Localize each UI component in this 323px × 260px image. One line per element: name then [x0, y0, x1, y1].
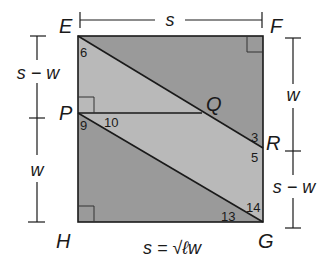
- angle-label-3: 3: [251, 130, 258, 145]
- angle-label-9: 9: [80, 118, 87, 133]
- top-dim-label: s: [166, 10, 175, 30]
- right-dim-lower-label: s − w: [273, 177, 317, 197]
- vertex-label-q: Q: [206, 93, 222, 115]
- vertex-label-e: E: [59, 15, 73, 37]
- vertex-label-h: H: [56, 230, 71, 252]
- angle-label-5: 5: [251, 150, 258, 165]
- angle-label-13: 13: [221, 209, 235, 224]
- vertex-label-p: P: [59, 102, 73, 124]
- angle-label-6: 6: [80, 45, 87, 60]
- right-dim-upper-label: w: [287, 85, 301, 105]
- vertex-label-g: G: [258, 230, 274, 252]
- angle-label-10: 10: [104, 115, 118, 130]
- left-dim-upper-label: s − w: [17, 63, 61, 83]
- square-diagram: s s − w w w s − w E F G H P Q R 6 10 9 3…: [0, 0, 323, 260]
- angle-label-14: 14: [246, 200, 260, 215]
- left-dim-lower-label: w: [31, 160, 45, 180]
- bottom-formula-label: s = √ℓw: [143, 238, 202, 258]
- vertex-label-r: R: [266, 132, 280, 154]
- diagram-canvas: s s − w w w s − w E F G H P Q R 6 10 9 3…: [0, 0, 323, 260]
- vertex-label-f: F: [270, 15, 284, 37]
